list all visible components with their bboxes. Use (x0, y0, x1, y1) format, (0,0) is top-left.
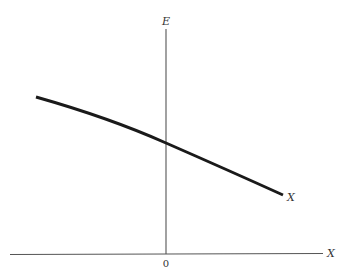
diagram-canvas: E X 0 X (0, 0, 353, 277)
curve-label: X (286, 191, 296, 204)
curve-x (36, 97, 283, 195)
horizontal-axis-label: X (326, 247, 336, 260)
origin-label: 0 (163, 258, 169, 269)
vertical-axis-label: E (161, 15, 170, 28)
horizontal-axis-x (10, 254, 323, 255)
